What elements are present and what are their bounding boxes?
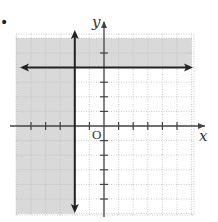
origin-label: O xyxy=(92,127,101,142)
x-axis-label: x xyxy=(199,127,208,145)
problem-bullet: • xyxy=(0,14,8,30)
inequality-graph: • y x O xyxy=(0,0,218,222)
y-axis-label: y xyxy=(91,13,101,31)
y-axis-arrow-icon xyxy=(101,21,107,28)
